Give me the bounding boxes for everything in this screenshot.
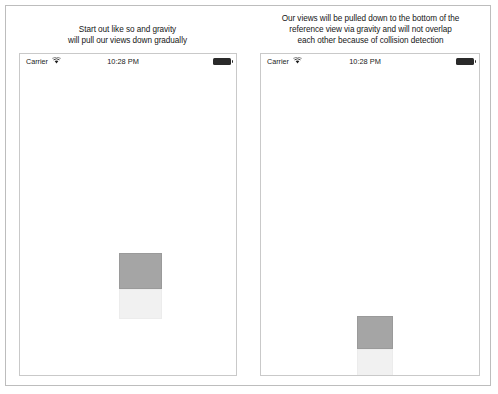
- battery-full-icon: [213, 58, 231, 65]
- status-bar-right-group-left: [185, 58, 231, 65]
- wifi-icon: [52, 57, 61, 66]
- status-bar-left: Carrier 10:28 PM: [20, 54, 236, 69]
- gray-square-left: [119, 253, 162, 289]
- status-bar-time-left: 10:28 PM: [61, 57, 185, 66]
- status-bar-right: Carrier 10:28 PM: [261, 54, 479, 69]
- status-bar-left-group-right: Carrier: [267, 57, 302, 66]
- light-square-left: [119, 289, 162, 319]
- figure-frame: Start out like so and gravity will pull …: [5, 5, 491, 386]
- battery-full-icon: [456, 58, 474, 65]
- panel-right-caption: Our views will be pulled down to the bot…: [249, 13, 492, 46]
- status-bar-left-group: Carrier: [26, 57, 61, 66]
- gray-square-right: [357, 316, 393, 349]
- status-bar-time-right: 10:28 PM: [302, 57, 428, 66]
- phone-screen-right: [261, 69, 479, 375]
- panel-left: Start out like so and gravity will pull …: [6, 6, 249, 385]
- phone-mockup-left: Carrier 10:28 PM: [19, 53, 237, 376]
- light-square-right: [357, 349, 393, 376]
- panel-right: Our views will be pulled down to the bot…: [249, 6, 492, 385]
- wifi-icon: [293, 57, 302, 66]
- carrier-label: Carrier: [26, 57, 48, 66]
- status-bar-right-group: [428, 58, 474, 65]
- phone-screen-left: [20, 69, 236, 375]
- panel-left-caption: Start out like so and gravity will pull …: [6, 24, 249, 46]
- phone-mockup-right: Carrier 10:28 PM: [260, 53, 480, 376]
- carrier-label: Carrier: [267, 57, 289, 66]
